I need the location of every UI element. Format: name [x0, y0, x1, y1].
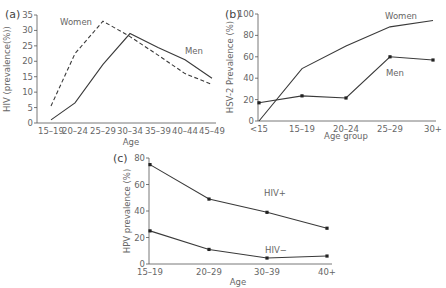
panel-c-hpv-prevalence-chart: 02040608015–1920–2930–3940+AgeHPV preval… — [113, 152, 336, 287]
x-tick-label: 20–29 — [196, 267, 222, 277]
x-tick-label: <15 — [250, 124, 268, 134]
y-tick-label: 20 — [134, 233, 145, 243]
series-label: Men — [185, 46, 203, 56]
y-axis-title: HIV (prevalence(%)) — [2, 26, 12, 112]
series-label: Men — [386, 68, 404, 78]
series-label: HIV− — [265, 245, 287, 255]
x-axis-title: Age — [123, 137, 139, 147]
series-label: Women — [60, 17, 92, 27]
x-axis-title: Age group — [324, 131, 368, 141]
y-tick-label: 0 — [28, 118, 33, 128]
series-line-men — [259, 57, 433, 103]
y-tick-label: 20 — [22, 56, 33, 66]
data-point-marker — [148, 229, 151, 232]
x-axis-title: Age — [230, 277, 246, 287]
data-point-marker — [207, 197, 210, 200]
y-tick-label: 20 — [243, 95, 254, 105]
x-tick-label: 35–39 — [145, 126, 171, 136]
y-tick-label: 80 — [243, 30, 254, 40]
x-tick-label: 15–19 — [38, 126, 64, 136]
x-tick-label: 30–34 — [117, 126, 143, 136]
y-tick-label: 25 — [22, 41, 33, 51]
y-tick-label: 35 — [22, 10, 33, 20]
data-point-marker — [325, 227, 328, 230]
data-point-marker — [265, 256, 268, 259]
panel-label: (c) — [113, 152, 128, 165]
y-tick-label: 5 — [28, 103, 33, 113]
y-tick-label: 60 — [134, 180, 145, 190]
y-axis-title: HPV prevalence (%) — [122, 169, 132, 254]
x-tick-label: 40–44 — [172, 126, 198, 136]
x-tick-label: 40+ — [318, 267, 336, 277]
x-tick-label: 15–19 — [289, 124, 315, 134]
y-tick-label: 60 — [243, 52, 254, 62]
data-point-marker — [325, 254, 328, 257]
data-point-marker — [207, 248, 210, 251]
data-point-marker — [344, 96, 347, 99]
panel-label: (a) — [5, 8, 20, 21]
panel-label: (b) — [225, 8, 241, 21]
y-axis-title: HSV-2 Prevalence (%) — [225, 21, 235, 113]
series-line-women — [259, 20, 433, 121]
x-tick-label: 25–29 — [377, 124, 403, 134]
figure-canvas: 0510152025303515–1920–2425–2930–3435–394… — [0, 0, 446, 288]
y-tick-label: 15 — [22, 72, 33, 82]
series-label: HIV+ — [264, 188, 286, 198]
y-tick-label: 40 — [243, 73, 254, 83]
panel-a-hiv-prevalence-chart: 0510152025303515–1920–2425–2930–3435–394… — [2, 8, 225, 147]
data-point-marker — [431, 58, 434, 61]
x-tick-label: 25–29 — [90, 126, 116, 136]
x-tick-label: 15–19 — [137, 267, 163, 277]
y-tick-label: 80 — [134, 153, 145, 163]
x-tick-label: 20–24 — [62, 126, 88, 136]
data-point-marker — [300, 94, 303, 97]
y-tick-label: 40 — [134, 206, 145, 216]
x-tick-label: 30+ — [424, 124, 442, 134]
data-point-marker — [257, 101, 260, 104]
y-tick-label: 30 — [22, 25, 33, 35]
data-point-marker — [388, 55, 391, 58]
series-line-hiv- — [150, 231, 327, 258]
y-tick-label: 10 — [22, 87, 33, 97]
data-point-marker — [265, 211, 268, 214]
x-tick-label: 45–49 — [199, 126, 225, 136]
panel-b-hsv2-prevalence-chart: 020406080100<1515–1920–2425–2930+Age gro… — [225, 8, 442, 141]
series-line-hiv- — [150, 165, 327, 229]
data-point-marker — [148, 163, 151, 166]
series-label: Women — [385, 11, 417, 21]
x-tick-label: 30–39 — [254, 267, 280, 277]
